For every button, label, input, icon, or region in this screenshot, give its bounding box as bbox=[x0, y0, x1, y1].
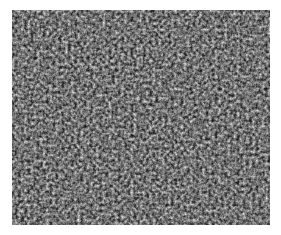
noise-highlight-layer bbox=[12, 10, 270, 225]
granular-texture-image bbox=[12, 10, 270, 225]
image-canvas: Grayscale high-frequency granular textur… bbox=[0, 0, 281, 235]
noise-texture-graphic bbox=[12, 10, 270, 225]
